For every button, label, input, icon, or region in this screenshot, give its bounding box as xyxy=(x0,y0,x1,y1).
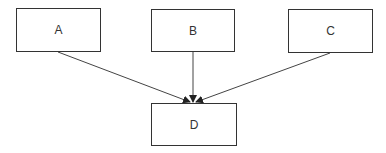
edge-a-to-d xyxy=(58,52,190,102)
node-c-label: C xyxy=(326,24,335,38)
node-b-label: B xyxy=(189,24,197,38)
node-d-label: D xyxy=(190,118,199,132)
node-a-label: A xyxy=(54,23,62,37)
node-c[interactable]: C xyxy=(288,9,373,53)
node-a[interactable]: A xyxy=(16,8,101,52)
node-b[interactable]: B xyxy=(151,9,235,52)
edge-c-to-d xyxy=(196,53,330,102)
node-d[interactable]: D xyxy=(151,103,237,146)
